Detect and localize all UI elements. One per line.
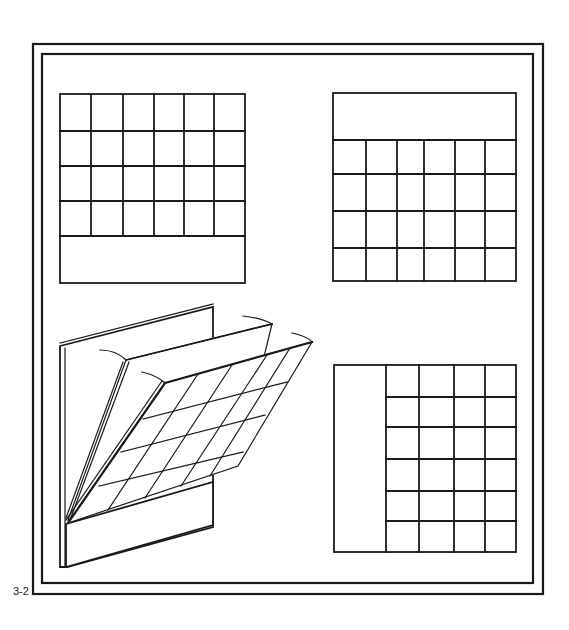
panel-bottom-left-3d [60, 304, 312, 567]
figure-diagram [0, 0, 569, 630]
figure-number-label: 3-2 [13, 585, 29, 597]
panel-bottom-right [334, 365, 516, 552]
panel-top-left [60, 94, 245, 283]
panel-top-right [333, 93, 516, 281]
